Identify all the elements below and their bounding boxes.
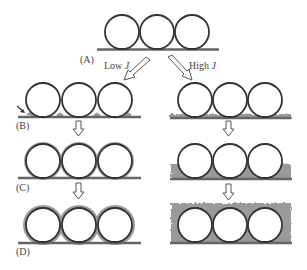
- sphere: [213, 83, 247, 117]
- label-low-j: Low J: [104, 60, 129, 71]
- stage-b-high: [170, 83, 291, 118]
- high-j-prefix: High: [189, 60, 212, 71]
- stage-d-low: [18, 205, 141, 245]
- sphere: [213, 144, 247, 178]
- high-j-variable: J: [212, 60, 216, 71]
- sphere: [178, 144, 212, 178]
- sphere: [98, 144, 132, 178]
- sphere: [98, 208, 132, 242]
- sphere: [213, 208, 247, 242]
- sphere: [248, 144, 282, 178]
- label-c: (C): [16, 182, 29, 193]
- sphere: [62, 208, 96, 242]
- sphere: [26, 83, 60, 117]
- label-d: (D): [16, 246, 30, 257]
- sphere: [140, 15, 174, 49]
- nucleus-deposit: [56, 113, 64, 117]
- arrow-down-cd-high: [223, 184, 234, 200]
- sphere: [248, 83, 282, 117]
- low-j-prefix: Low: [104, 60, 125, 71]
- stage-c-low: [18, 142, 141, 180]
- stage-d-high: [170, 203, 292, 243]
- sphere: [62, 144, 96, 178]
- nucleus-deposit: [93, 113, 101, 117]
- sphere: [26, 144, 60, 178]
- stage-c-high: [170, 144, 292, 179]
- arrow-down-bc-low: [73, 121, 84, 136]
- arrow-down-bc-high: [223, 121, 234, 136]
- sphere: [248, 208, 282, 242]
- sphere: [105, 15, 139, 49]
- stage-b-low: [17, 83, 141, 117]
- sphere: [175, 15, 209, 49]
- sphere: [62, 83, 96, 117]
- sphere: [26, 208, 60, 242]
- label-a: (A): [80, 54, 94, 65]
- sphere: [178, 208, 212, 242]
- low-j-variable: J: [125, 60, 129, 71]
- diagram-canvas: [0, 0, 307, 270]
- stage-a: [97, 15, 219, 50]
- sphere: [98, 83, 132, 117]
- sphere: [178, 83, 212, 117]
- arrow-down-cd-low: [73, 183, 84, 199]
- label-high-j: High J: [189, 60, 216, 71]
- label-b: (B): [16, 120, 29, 131]
